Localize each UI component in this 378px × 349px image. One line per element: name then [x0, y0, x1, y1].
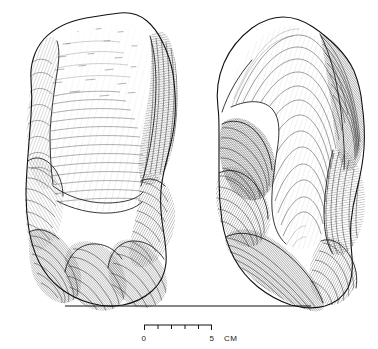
scale-max-label: 5: [210, 334, 215, 343]
scale-min-label: 0: [142, 334, 147, 343]
lithic-illustration-svg: 0 5 CM: [0, 0, 378, 349]
figure-plate: 0 5 CM: [0, 0, 378, 349]
scale-unit-label: CM: [224, 334, 237, 343]
